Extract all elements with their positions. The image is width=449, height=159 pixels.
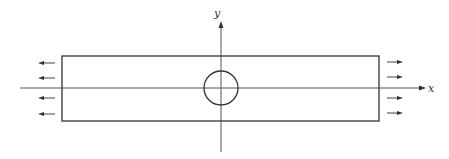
load-arrow-head bbox=[397, 60, 403, 64]
left-load-arrow bbox=[38, 61, 55, 65]
right-load-arrow bbox=[387, 75, 403, 79]
load-arrow-head bbox=[38, 96, 44, 100]
right-load-arrow bbox=[387, 60, 403, 64]
plate-with-hole-diagram: x y bbox=[0, 0, 449, 159]
load-arrow-head bbox=[38, 112, 44, 116]
load-arrow-head bbox=[397, 111, 403, 115]
left-load-arrow bbox=[38, 96, 55, 100]
right-load-arrow bbox=[387, 111, 403, 115]
load-arrow-head bbox=[397, 75, 403, 79]
y-axis-arrowhead bbox=[219, 21, 224, 28]
x-axis-arrowhead bbox=[419, 86, 426, 91]
right-load-arrow bbox=[387, 96, 403, 100]
x-axis-label: x bbox=[428, 82, 435, 95]
left-load-arrow bbox=[38, 76, 55, 80]
y-axis-label: y bbox=[213, 7, 221, 20]
load-arrow-head bbox=[38, 61, 44, 65]
load-arrow-head bbox=[38, 76, 44, 80]
load-arrow-head bbox=[397, 96, 403, 100]
left-load-arrow bbox=[38, 112, 55, 116]
